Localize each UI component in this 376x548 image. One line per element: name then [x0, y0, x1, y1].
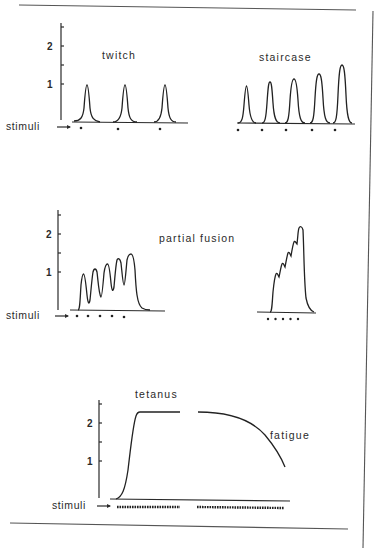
y-tick-2: 2 [46, 229, 52, 240]
y-tick-1: 1 [46, 267, 52, 278]
y-tick-1: 1 [87, 456, 93, 467]
partial-fusion-compressed-curve [270, 227, 314, 312]
fatigue-label: fatigue [270, 429, 310, 441]
top-rule [19, 5, 356, 10]
baseline [72, 122, 188, 123]
twitch-curve [74, 85, 176, 122]
twitch-label: twitch [102, 49, 136, 61]
stimuli-train-2 [197, 507, 284, 508]
staircase-label: staircase [259, 51, 312, 63]
stimuli-label: stimuli [52, 499, 86, 511]
baseline [110, 499, 290, 501]
y-tick-1: 1 [47, 79, 53, 90]
partial-fusion-label: partial fusion [159, 232, 235, 244]
twitch-panel: 2 1 twitch stimuli [6, 23, 188, 132]
partial-fusion-curve [78, 254, 150, 310]
y-tick-2: 2 [87, 418, 93, 429]
bottom-rule [10, 523, 348, 529]
tetanus-curve [116, 412, 180, 499]
staircase-curve [238, 65, 352, 123]
partial-fusion-compressed-panel [257, 227, 316, 321]
y-tick-2: 2 [47, 41, 53, 52]
stimuli-label: stimuli [6, 120, 40, 132]
tetanus-panel: 2 1 tetanus fatigue stimuli [52, 388, 310, 511]
staircase-panel: staircase [237, 51, 355, 131]
right-rule [363, 11, 373, 548]
partial-fusion-panel: 2 1 partial fusion stimuli [6, 210, 235, 321]
tetanus-label: tetanus [135, 388, 178, 400]
stimuli-label: stimuli [6, 309, 40, 321]
muscle-contraction-figure: 2 1 twitch stimuli staircase 2 1 [0, 0, 376, 548]
baseline [257, 312, 316, 313]
baseline [70, 310, 165, 311]
